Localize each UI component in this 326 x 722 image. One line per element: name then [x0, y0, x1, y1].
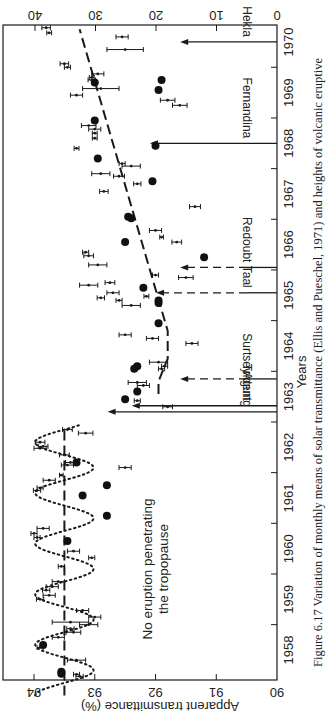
y-right-tick-label: 30 — [88, 8, 102, 23]
x-tick-label: 1965 — [281, 281, 296, 310]
arrow-head-icon — [180, 376, 188, 382]
error-bar-point — [186, 341, 198, 346]
solid-dot — [155, 86, 163, 94]
y-axis-label: Apparent transmittance (%) — [81, 699, 239, 714]
y-right-tick-label: 0 — [273, 8, 280, 23]
error-bar-point — [89, 555, 95, 560]
error-bar-point — [173, 103, 188, 108]
eruption-redoubt: Redoubt — [180, 217, 277, 270]
error-bar-point — [70, 93, 82, 98]
x-tick-label: 1970 — [281, 27, 296, 56]
x-tick-label: 1960 — [281, 534, 296, 563]
error-bar-point — [92, 171, 110, 176]
solid-dot — [63, 537, 71, 545]
error-bar-point — [105, 280, 115, 285]
x-tick-label: 1967 — [281, 180, 296, 209]
y-tick-label: 91 — [209, 685, 223, 700]
solid-dot — [57, 668, 65, 676]
solid-dot — [73, 459, 81, 467]
error-bar-point — [160, 235, 164, 240]
y-right-tick-label: 20 — [149, 8, 163, 23]
solid-dot — [133, 362, 141, 370]
error-bar-point — [64, 65, 70, 70]
solid-dot — [152, 142, 160, 150]
figure-caption: Figure 6.17 Variation of monthly means o… — [311, 58, 325, 667]
error-bar-point — [43, 478, 55, 483]
arrow-head-icon — [180, 39, 188, 45]
x-axis-label: Years — [294, 355, 309, 388]
error-bar-point — [97, 295, 104, 300]
solid-dot — [39, 641, 47, 649]
arrow-head-icon — [108, 409, 116, 415]
eruption-label: Surtsey — [240, 333, 254, 374]
rotated-figure: 9091929394010203040195819591960196119621… — [0, 0, 326, 722]
error-bar-point — [149, 228, 161, 233]
solid-dot — [200, 253, 208, 261]
eruption-surtsey: Surtsey — [180, 333, 277, 382]
error-bar-point — [60, 473, 64, 478]
error-bar-point — [92, 136, 97, 141]
error-bar-point — [146, 336, 158, 341]
eruption-label: Taal — [240, 266, 254, 288]
y-right-tick-label: 10 — [209, 8, 223, 23]
error-bar-point — [134, 398, 140, 403]
eruption-label: Hekla — [240, 6, 254, 37]
eruption-arrows: AgungTridentSurtseyTaalRedoubtFernandina… — [108, 6, 277, 415]
error-bar-point — [119, 465, 131, 470]
x-tick-label: 1958 — [281, 636, 296, 665]
error-bar-point — [52, 635, 64, 640]
solid-dot — [121, 395, 129, 403]
error-bar-point — [74, 146, 79, 151]
error-bar-point — [152, 273, 158, 278]
solid-dot — [91, 78, 99, 86]
eruption-label: Fernandina — [240, 78, 254, 139]
error-bar-point — [172, 240, 182, 245]
solid-dot — [158, 76, 166, 84]
solid-dot — [103, 481, 111, 489]
solid-dot — [155, 319, 163, 327]
error-bar-point — [122, 303, 140, 308]
solid-dot — [139, 284, 147, 292]
error-bar-point — [67, 549, 79, 554]
error-bar-point — [137, 383, 149, 388]
error-bar-point — [66, 630, 81, 635]
error-bar-points — [31, 25, 200, 679]
error-bar-point — [78, 431, 93, 436]
error-bar-point — [52, 579, 64, 584]
error-bar-point — [52, 620, 88, 625]
error-bar-point — [100, 189, 109, 194]
error-bar-point — [190, 204, 201, 209]
solid-dot — [94, 155, 102, 163]
error-bar-point — [144, 294, 149, 299]
error-bar-point — [179, 275, 194, 280]
x-tick-label: 1959 — [281, 585, 296, 614]
arrow-head-icon — [132, 403, 140, 409]
solid-dot — [121, 238, 129, 246]
solid-dot — [148, 177, 156, 185]
error-bar-point — [43, 593, 55, 598]
solid-dot — [133, 388, 141, 396]
x-tick-label: 1969 — [281, 78, 296, 107]
eruption-label: Redoubt — [240, 217, 254, 263]
solid-dot — [91, 116, 99, 124]
eruption-taal: Taal — [156, 266, 277, 296]
error-bar-point — [61, 463, 73, 468]
eruption-hekla: Hekla — [180, 6, 277, 45]
solid-dot — [103, 512, 111, 520]
x-tick-label: 1966 — [281, 230, 296, 259]
arrow-head-icon — [156, 290, 164, 296]
eruption-fernandina: Fernandina — [150, 78, 277, 147]
y-tick-label: 93 — [88, 685, 102, 700]
x-tick-label: 1968 — [281, 129, 296, 158]
error-bar-point — [134, 181, 141, 186]
error-bar-point — [80, 283, 98, 288]
error-bar-point — [42, 25, 51, 30]
error-bar-point — [116, 298, 122, 303]
error-bar-point — [89, 262, 107, 267]
annotation-line-2: the tropopause — [156, 524, 171, 614]
solid-dot — [79, 491, 87, 499]
error-bar-point — [83, 86, 119, 91]
error-bar-point — [107, 290, 119, 295]
error-bar-point — [37, 526, 49, 531]
error-bar-point — [116, 34, 128, 39]
